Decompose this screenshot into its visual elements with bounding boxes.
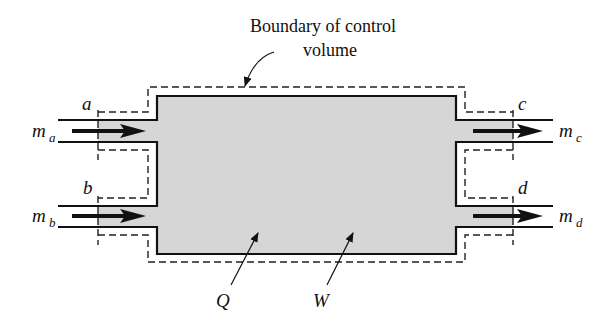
svg-text:a: a [49, 130, 56, 145]
station-label-d: d [518, 177, 528, 198]
mass-flow-label-b: m b [32, 205, 56, 230]
svg-text:m: m [32, 120, 46, 141]
svg-text:m: m [559, 120, 573, 141]
svg-text:m: m [32, 205, 46, 226]
mass-flow-label-a: m a [32, 120, 56, 145]
boundary-label-line2: volume [303, 40, 357, 60]
svg-text:d: d [576, 215, 583, 230]
svg-text:c: c [576, 130, 582, 145]
station-label-a: a [82, 93, 92, 114]
station-label-b: b [83, 177, 93, 198]
boundary-label-line1: Boundary of control [250, 16, 396, 36]
control-volume-fill [98, 96, 513, 254]
mass-flow-label-c: m c [559, 120, 582, 145]
heat-label: Q [216, 290, 230, 311]
work-label: W [313, 290, 331, 311]
svg-text:b: b [49, 215, 56, 230]
control-volume-diagram: Boundary of control volume a b c d m a m… [0, 0, 602, 334]
svg-text:m: m [559, 205, 573, 226]
boundary-pointer-arrow [245, 52, 274, 86]
station-label-c: c [518, 93, 527, 114]
mass-flow-label-d: m d [559, 205, 583, 230]
